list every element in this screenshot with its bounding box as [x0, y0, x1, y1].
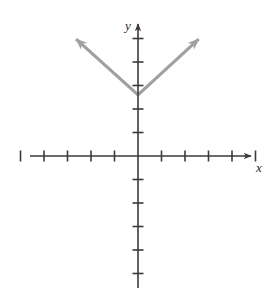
graph-figure: x y: [0, 0, 276, 297]
y-axis-label: y: [123, 18, 131, 33]
coordinate-plane-svg: x y: [0, 0, 276, 297]
x-axis-label: x: [255, 160, 262, 175]
